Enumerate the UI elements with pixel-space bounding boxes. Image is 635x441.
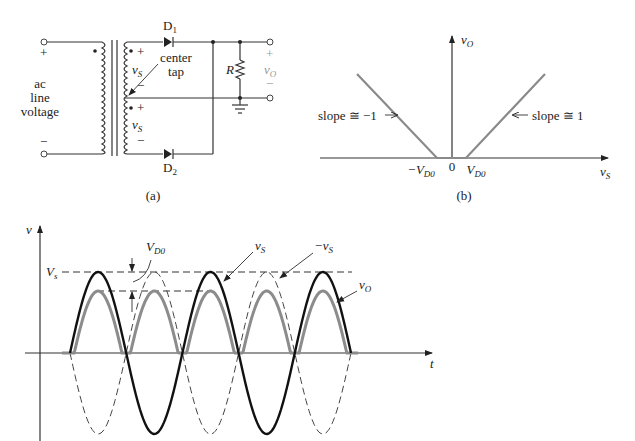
circuit-diagram: + − ac line voltage + − + − vS vS D1 cen… xyxy=(21,18,277,203)
output-terminal-top xyxy=(267,39,273,45)
vs-top-label: vS xyxy=(132,62,143,79)
d2-label: D2 xyxy=(163,160,177,177)
secondary-top-dot xyxy=(129,49,133,53)
vs-label: vS xyxy=(255,238,266,255)
input-minus: − xyxy=(40,134,47,149)
input-label-ac: ac xyxy=(34,76,46,91)
vs-bottom-label: vS xyxy=(132,117,143,134)
sec-bot-minus: − xyxy=(137,133,144,148)
center-tap-label-1: center xyxy=(160,50,192,65)
resistor-label: R xyxy=(225,62,234,77)
secondary-bottom-dot xyxy=(129,106,133,110)
y-label-c: v xyxy=(26,222,32,237)
center-tap-label-2: tap xyxy=(168,64,184,79)
input-terminal-bottom xyxy=(41,151,47,157)
out-plus: + xyxy=(266,46,273,61)
neg-vd0-label: −VD0 xyxy=(407,162,435,179)
diode-d1 xyxy=(164,37,173,47)
input-label-line: line xyxy=(30,90,50,105)
x-label-b: vS xyxy=(600,164,611,181)
sec-top-plus: + xyxy=(137,44,144,59)
vo-waveform xyxy=(62,291,358,353)
input-plus: + xyxy=(40,45,47,60)
t-label: t xyxy=(430,356,434,371)
vd0-label: VD0 xyxy=(146,239,165,256)
caption-a: (a) xyxy=(146,188,160,203)
vs-peak-label: Vs xyxy=(46,264,58,281)
d1-label: D1 xyxy=(163,18,177,35)
ground-icon xyxy=(232,98,248,113)
resistor xyxy=(236,60,244,79)
input-label-voltage: voltage xyxy=(21,104,59,119)
sec-bot-plus: + xyxy=(137,100,144,115)
pos-vd0-label: VD0 xyxy=(467,162,486,179)
transfer-characteristic: vO vS −VD0 0 VD0 slope ≅ −1 slope ≅ 1 (b… xyxy=(318,32,611,203)
primary-winding xyxy=(102,42,105,154)
neg-vs-label: −vS xyxy=(314,238,334,255)
caption-b: (b) xyxy=(456,188,471,203)
transfer-curve xyxy=(357,74,545,158)
waveform-plot: v t Vs VD0 vS −vS vO xyxy=(25,222,434,441)
vo-label: vO xyxy=(264,62,277,79)
vo-label-c: vO xyxy=(359,277,372,294)
zero-label: 0 xyxy=(449,159,456,174)
diode-d2 xyxy=(164,149,173,159)
slope-left-label: slope ≅ −1 xyxy=(318,108,377,123)
primary-dot xyxy=(93,49,97,53)
y-label-b: vO xyxy=(461,32,474,49)
output-terminal-bottom xyxy=(267,95,273,101)
figure-canvas: + − ac line voltage + − + − vS vS D1 cen… xyxy=(0,0,635,441)
slope-right-label: slope ≅ 1 xyxy=(532,108,583,123)
